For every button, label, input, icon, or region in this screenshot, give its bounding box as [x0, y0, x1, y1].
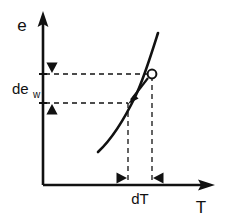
y-interval-subscript-label: w — [32, 89, 41, 100]
thermodynamic-diagram: e T de w dT — [0, 0, 225, 220]
x-interval-arrows-group — [117, 173, 164, 184]
y-interval-label: de — [12, 80, 29, 97]
operating-point-marker — [148, 70, 157, 79]
axes-group — [38, 11, 215, 191]
y-interval-top-arrow-icon — [46, 63, 57, 74]
y-axis-label: e — [17, 16, 26, 35]
guide-lines-group — [45, 74, 152, 184]
y-interval-bottom-arrow-icon — [46, 104, 57, 115]
y-interval-arrows-group — [46, 63, 57, 115]
x-interval-left-arrow-icon — [117, 173, 128, 184]
x-interval-right-arrow-icon — [153, 173, 164, 184]
diagram-canvas: e T de w dT — [0, 0, 225, 220]
x-interval-label: dT — [131, 190, 149, 207]
x-axis-label: T — [196, 198, 206, 217]
